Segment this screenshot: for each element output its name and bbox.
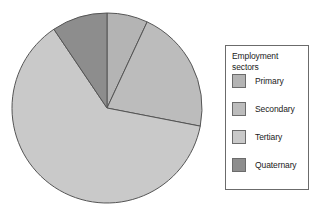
legend-title: Employment sectors	[232, 51, 306, 72]
legend-swatch-quaternary	[232, 158, 246, 172]
legend-label-tertiary: Tertiary	[255, 132, 282, 142]
legend-label-primary: Primary	[255, 76, 284, 86]
pie-chart-graphic	[0, 0, 215, 217]
legend-label-quaternary: Quaternary	[255, 160, 297, 170]
figure-caption	[52, 210, 212, 217]
pie-slices-group	[12, 13, 202, 203]
legend-item-secondary: Secondary	[232, 100, 306, 118]
legend-swatch-primary	[232, 74, 246, 88]
legend-item-tertiary: Tertiary	[232, 128, 306, 146]
legend-swatch-tertiary	[232, 130, 246, 144]
chart-legend: Employment sectors PrimarySecondaryTerti…	[225, 45, 309, 190]
legend-title-line-1: Employment	[232, 51, 306, 62]
legend-item-primary: Primary	[232, 72, 306, 90]
legend-item-quaternary: Quaternary	[232, 156, 306, 174]
pie-chart-figure: Employment sectors PrimarySecondaryTerti…	[0, 0, 333, 217]
legend-swatch-secondary	[232, 102, 246, 116]
legend-label-secondary: Secondary	[255, 104, 295, 114]
legend-title-line-2: sectors	[232, 62, 306, 73]
